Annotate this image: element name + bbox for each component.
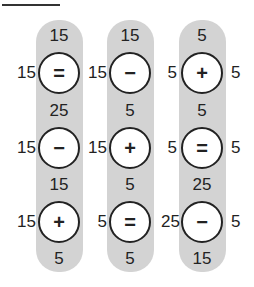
- col2-row2-top-number: 5: [113, 101, 147, 121]
- col1-bottom-number: 5: [42, 249, 76, 269]
- col3-row3-left-number: 25: [150, 212, 180, 232]
- col2-bottom-number: 5: [113, 249, 147, 269]
- col3-row1-top-number: 5: [185, 26, 219, 46]
- col1-row1-operator-equals-icon: =: [38, 52, 80, 94]
- col3-row3-right-number: 5: [231, 212, 254, 232]
- col3-row1-operator-plus-icon: +: [181, 52, 223, 94]
- col3-row1-right-number: 5: [231, 63, 254, 83]
- col2-row1-operator-minus-icon: −: [109, 52, 151, 94]
- col1-row3-top-number: 15: [42, 175, 76, 195]
- col3-row2-top-number: 5: [185, 101, 219, 121]
- col3-row2-left-number: 5: [147, 138, 177, 158]
- col2-row3-left-number: 5: [77, 212, 107, 232]
- col3-row2-operator-equals-icon: =: [181, 127, 223, 169]
- col2-row2-operator-plus-icon: +: [109, 127, 151, 169]
- col1-row2-left-number: 15: [6, 138, 36, 158]
- col2-row2-left-number: 15: [77, 138, 107, 158]
- col1-row3-left-number: 15: [6, 212, 36, 232]
- col1-row3-operator-plus-icon: +: [38, 201, 80, 243]
- header-underline: [2, 4, 60, 6]
- col1-row1-top-number: 15: [42, 26, 76, 46]
- col1-row1-left-number: 15: [6, 63, 36, 83]
- col3-row3-top-number: 25: [185, 175, 219, 195]
- col2-row3-operator-equals-icon: =: [109, 201, 151, 243]
- col2-row3-top-number: 5: [113, 175, 147, 195]
- col3-bottom-number: 15: [185, 249, 219, 269]
- col3-row2-right-number: 5: [231, 138, 254, 158]
- col1-row2-operator-minus-icon: −: [38, 127, 80, 169]
- col3-row3-operator-minus-icon: −: [181, 201, 223, 243]
- col3-row1-left-number: 5: [147, 63, 177, 83]
- col2-row1-top-number: 15: [113, 26, 147, 46]
- col1-row2-top-number: 25: [42, 101, 76, 121]
- col2-row1-left-number: 15: [77, 63, 107, 83]
